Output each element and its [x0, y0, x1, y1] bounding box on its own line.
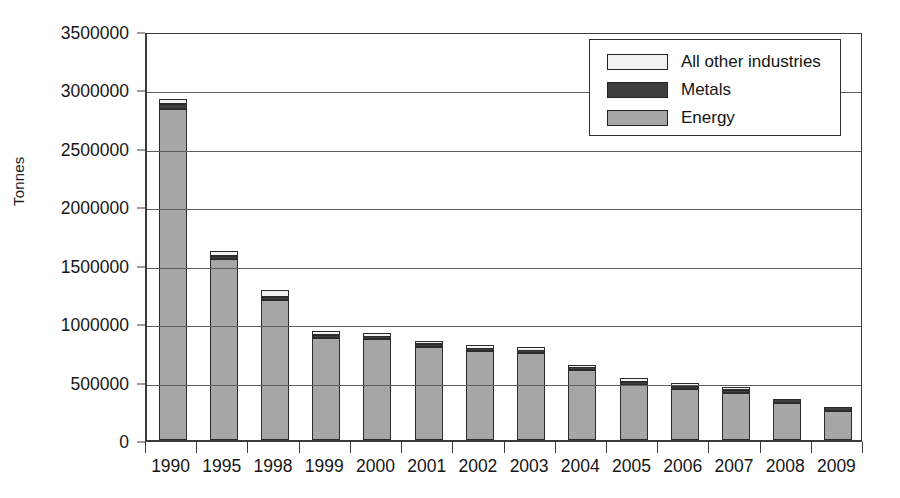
x-tick-mark	[760, 442, 761, 453]
x-tick-label: 2007	[714, 456, 753, 477]
x-tick-mark	[811, 442, 812, 453]
bar-segment-energy[interactable]	[620, 385, 648, 441]
bar-segment-energy[interactable]	[363, 339, 391, 440]
x-tick-label: 2001	[407, 456, 446, 477]
x-axis-ticks	[145, 442, 862, 456]
bar-segment-metals[interactable]	[773, 399, 801, 403]
bar-group[interactable]	[773, 399, 801, 440]
bar-segment-all-other-industries[interactable]	[466, 345, 494, 349]
x-tick-label: 2009	[817, 456, 856, 477]
bar-segment-all-other-industries[interactable]	[312, 331, 340, 335]
stacked-bar-chart: Tonnes 350000030000002500000200000015000…	[0, 0, 900, 498]
y-tick-mark	[137, 325, 145, 326]
x-tick-mark	[862, 442, 863, 453]
bar-segment-energy[interactable]	[415, 347, 443, 440]
bar-segment-all-other-industries[interactable]	[568, 365, 596, 368]
bar-segment-metals[interactable]	[312, 335, 340, 338]
y-tick-mark	[137, 383, 145, 384]
x-tick-mark	[145, 442, 146, 453]
x-tick-mark	[555, 442, 556, 453]
x-tick-label: 2003	[510, 456, 549, 477]
x-tick-mark	[350, 442, 351, 453]
bar-group[interactable]	[671, 383, 699, 440]
bar-segment-all-other-industries[interactable]	[415, 341, 443, 345]
bar-group[interactable]	[517, 347, 545, 440]
x-tick-label: 2002	[458, 456, 497, 477]
bar-segment-metals[interactable]	[210, 256, 238, 260]
y-tick-mark	[137, 208, 145, 209]
bar-group[interactable]	[824, 407, 852, 440]
legend-item-energy[interactable]: Energy	[590, 104, 840, 132]
bar-group[interactable]	[466, 345, 494, 440]
legend-item-all-other-industries[interactable]: All other industries	[590, 48, 840, 76]
x-tick-mark	[657, 442, 658, 453]
x-tick-mark	[504, 442, 505, 453]
x-tick-mark	[299, 442, 300, 453]
bar-segment-energy[interactable]	[568, 370, 596, 440]
x-tick-label: 2004	[561, 456, 600, 477]
bar-group[interactable]	[363, 333, 391, 441]
y-tick-label: 2500000	[61, 139, 129, 160]
x-tick-label: 2008	[766, 456, 805, 477]
y-tick-mark	[137, 149, 145, 150]
x-tick-label: 1998	[254, 456, 293, 477]
x-tick-mark	[196, 442, 197, 453]
x-tick-mark	[401, 442, 402, 453]
bar-segment-metals[interactable]	[261, 297, 289, 300]
bar-segment-all-other-industries[interactable]	[722, 387, 750, 390]
bar-segment-metals[interactable]	[824, 407, 852, 411]
bar-segment-all-other-industries[interactable]	[517, 347, 545, 351]
gridline	[147, 385, 861, 386]
legend-label-energy: Energy	[681, 108, 735, 128]
bar-segment-all-other-industries[interactable]	[210, 251, 238, 256]
gridline	[147, 151, 861, 152]
y-tick-mark	[137, 33, 145, 34]
bar-segment-all-other-industries[interactable]	[620, 378, 648, 382]
legend-item-metals[interactable]: Metals	[590, 76, 840, 104]
bar-segment-all-other-industries[interactable]	[261, 290, 289, 296]
bar-group[interactable]	[261, 290, 289, 440]
bar-segment-energy[interactable]	[312, 338, 340, 440]
y-tick-label: 1500000	[61, 256, 129, 277]
bar-segment-energy[interactable]	[824, 411, 852, 440]
y-tick-mark	[137, 91, 145, 92]
y-tick-label: 3500000	[61, 23, 129, 44]
bar-segment-energy[interactable]	[773, 403, 801, 440]
bar-segment-energy[interactable]	[517, 353, 545, 440]
bar-segment-energy[interactable]	[722, 393, 750, 440]
bar-group[interactable]	[568, 365, 596, 440]
legend-swatch-metals	[607, 82, 668, 98]
y-tick-label: 0	[119, 432, 129, 453]
bar-group[interactable]	[210, 251, 238, 440]
x-tick-label: 2000	[356, 456, 395, 477]
x-tick-mark	[606, 442, 607, 453]
bar-segment-metals[interactable]	[159, 104, 187, 109]
y-tick-label: 2000000	[61, 198, 129, 219]
bar-group[interactable]	[722, 387, 750, 440]
x-tick-mark	[708, 442, 709, 453]
y-axis-tick-labels: 3500000300000025000002000000150000010000…	[0, 0, 143, 498]
bar-segment-all-other-industries[interactable]	[159, 99, 187, 104]
bar-segment-energy[interactable]	[159, 109, 187, 440]
x-tick-label: 1990	[151, 456, 190, 477]
bar-group[interactable]	[620, 378, 648, 440]
legend-swatch-energy	[607, 110, 668, 126]
x-axis-tick-labels: 1990199519981999200020012002200320042005…	[145, 456, 862, 486]
x-tick-label: 1999	[305, 456, 344, 477]
bar-group[interactable]	[415, 341, 443, 440]
x-tick-mark	[247, 442, 248, 453]
bar-segment-energy[interactable]	[210, 259, 238, 440]
gridline	[147, 268, 861, 269]
bar-segment-all-other-industries[interactable]	[363, 333, 391, 337]
legend-label-all-other-industries: All other industries	[681, 52, 821, 72]
bar-segment-energy[interactable]	[466, 351, 494, 440]
gridline	[147, 326, 861, 327]
x-tick-label: 1995	[202, 456, 241, 477]
y-tick-label: 1000000	[61, 315, 129, 336]
bar-segment-energy[interactable]	[261, 300, 289, 440]
legend-label-metals: Metals	[681, 80, 731, 100]
bar-segment-metals[interactable]	[671, 386, 699, 389]
y-tick-label: 3000000	[61, 81, 129, 102]
bar-segment-energy[interactable]	[671, 389, 699, 440]
y-tick-mark	[137, 442, 145, 443]
